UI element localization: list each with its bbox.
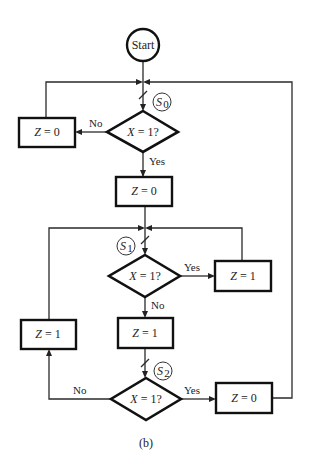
state-s1: S 1	[117, 237, 135, 255]
svg-text:2: 2	[164, 367, 170, 379]
decision-d0: X = 1?	[107, 111, 178, 152]
label-d2-no: No	[73, 384, 87, 396]
start-node: Start	[127, 29, 159, 61]
decision-d2: X = 1?	[111, 378, 181, 420]
svg-text:S: S	[156, 95, 162, 109]
box-z0-center: Z = 0	[116, 177, 172, 206]
svg-text:1: 1	[127, 242, 133, 254]
label-d1-no: No	[151, 299, 165, 311]
label-d2-yes: Yes	[184, 384, 200, 396]
state-s0: S 0	[153, 93, 171, 111]
box-z0-bottom-right: Z = 0	[216, 383, 272, 413]
svg-text:X = 1?: X = 1?	[126, 125, 158, 139]
figure-caption: (b)	[139, 436, 153, 450]
box-z0-left: Z = 0	[19, 118, 75, 147]
svg-text:Z = 0: Z = 0	[131, 184, 156, 198]
svg-text:Z = 1: Z = 1	[230, 269, 255, 283]
svg-text:Z = 1: Z = 1	[35, 327, 60, 341]
svg-text:S: S	[157, 364, 163, 378]
label-d0-yes: Yes	[149, 155, 165, 167]
svg-text:Z = 1: Z = 1	[132, 326, 157, 340]
label-d1-yes: Yes	[184, 261, 200, 273]
decision-d1: X = 1?	[109, 255, 180, 297]
flowchart: Start S 0 S 1 S 2 X = 1? X = 1? X = 1? Z…	[0, 0, 310, 451]
box-z1-right: Z = 1	[215, 261, 271, 291]
label-d0-no: No	[89, 117, 103, 129]
svg-text:0: 0	[163, 98, 169, 110]
svg-text:X = 1?: X = 1?	[128, 269, 160, 283]
svg-text:Z = 0: Z = 0	[34, 125, 59, 139]
svg-text:Z = 0: Z = 0	[231, 391, 256, 405]
start-label: Start	[132, 38, 155, 52]
box-z1-center: Z = 1	[118, 318, 173, 348]
box-z1-left: Z = 1	[21, 320, 76, 349]
svg-text:X = 1?: X = 1?	[129, 392, 161, 406]
state-s2: S 2	[154, 362, 172, 380]
svg-text:S: S	[120, 239, 126, 253]
